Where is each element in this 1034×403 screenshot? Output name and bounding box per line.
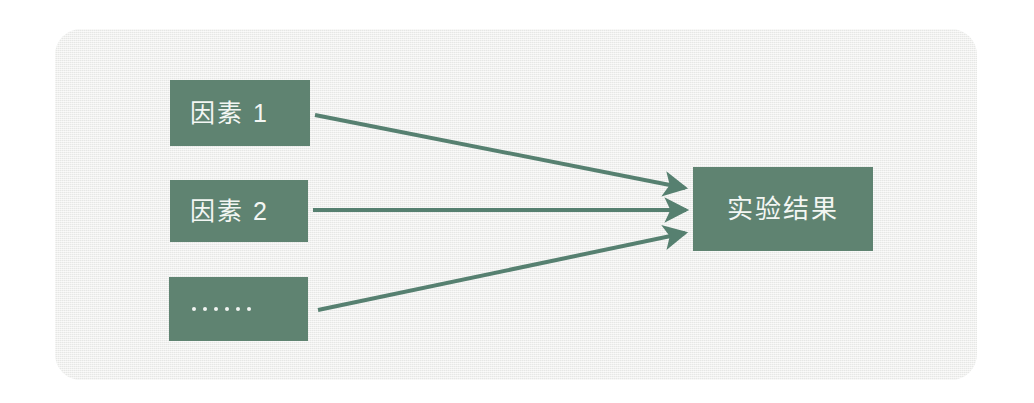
connector-arrows — [0, 0, 1034, 403]
ellipsis-dot — [247, 307, 251, 311]
result-node[interactable]: 实验结果 — [693, 167, 873, 251]
factor-node-1[interactable]: 因素 1 — [170, 80, 310, 146]
ellipsis-dot — [225, 307, 229, 311]
connector-factor-3-to-result — [318, 233, 685, 310]
ellipsis-dot — [214, 307, 218, 311]
factor-node-3-ellipsis — [169, 307, 251, 311]
factor-node-2[interactable]: 因素 2 — [170, 180, 308, 242]
ellipsis-dot — [236, 307, 240, 311]
factor-node-2-label: 因素 2 — [170, 199, 269, 224]
connector-factor-1-to-result — [315, 115, 685, 188]
factor-node-3[interactable] — [169, 277, 308, 341]
factor-node-1-label: 因素 1 — [170, 101, 269, 126]
ellipsis-dot — [192, 307, 196, 311]
ellipsis-dot — [203, 307, 207, 311]
result-node-label: 实验结果 — [727, 196, 839, 222]
diagram-canvas: 因素 1 因素 2 实验结果 — [0, 0, 1034, 403]
